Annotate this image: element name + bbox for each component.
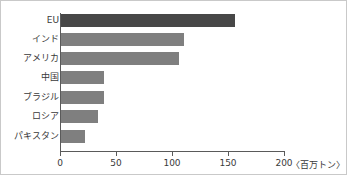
x-tick-label-100: 100	[163, 158, 180, 168]
category-label-pakistan: パキスタン	[14, 131, 59, 142]
x-axis-unit-label: 〈百万トン〉	[291, 158, 345, 171]
x-tick-label-150: 150	[219, 158, 236, 168]
bar-russia	[61, 110, 98, 123]
category-label-india: インド	[32, 34, 59, 45]
bar-china	[61, 71, 104, 84]
category-label-brazil: ブラジル	[23, 92, 59, 103]
category-label-russia: ロシア	[32, 111, 59, 122]
bar-eu	[61, 14, 235, 27]
y-axis-line	[60, 13, 61, 152]
category-label-china: 中国	[41, 72, 59, 83]
bar-usa	[61, 52, 179, 65]
category-label-eu: EU	[47, 15, 59, 26]
x-tick-200	[284, 152, 285, 156]
bar-chart-plot: EU インド アメリカ 中国 ブラジル ロシア パキスタン 0 50 100 1…	[1, 1, 347, 175]
bar-brazil	[61, 91, 104, 104]
category-label-usa: アメリカ	[23, 53, 59, 64]
x-tick-label-0: 0	[57, 158, 63, 168]
x-tick-0	[60, 152, 61, 156]
x-tick-50	[116, 152, 117, 156]
chart-frame: EU インド アメリカ 中国 ブラジル ロシア パキスタン 0 50 100 1…	[0, 0, 347, 175]
x-tick-label-50: 50	[110, 158, 121, 168]
bar-pakistan	[61, 130, 85, 143]
x-tick-150	[228, 152, 229, 156]
x-tick-100	[172, 152, 173, 156]
bar-india	[61, 33, 184, 46]
